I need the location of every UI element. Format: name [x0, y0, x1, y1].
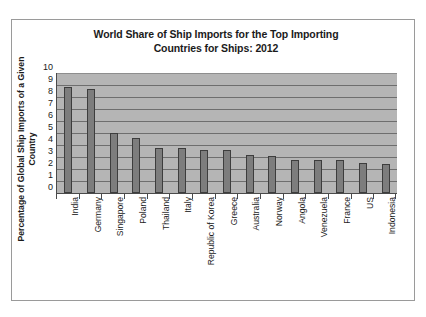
bar[interactable]	[200, 150, 208, 193]
bar-slot	[80, 73, 103, 193]
bar-slot	[102, 73, 125, 193]
chart-title-line-2: Countries for Ships: 2012	[46, 42, 386, 56]
bar[interactable]	[178, 148, 186, 193]
bar[interactable]	[314, 160, 322, 193]
bar-slot	[238, 73, 261, 193]
y-axis-tick-label: 8	[40, 86, 53, 97]
x-axis-label-slot: Australia	[237, 197, 260, 297]
chart-title-line-1: World Share of Ship Imports for the Top …	[46, 28, 386, 42]
y-axis-tick-labels: 109876543210	[40, 67, 53, 199]
y-axis-tick-label: 3	[40, 146, 53, 157]
y-axis-tick-label: 4	[40, 134, 53, 145]
bar[interactable]	[268, 156, 276, 193]
bar-slot	[284, 73, 307, 193]
y-axis-tick-label: 2	[40, 158, 53, 169]
x-axis-label-slot: Indonesia	[373, 197, 396, 297]
y-axis-tick-label: 7	[40, 98, 53, 109]
y-axis-title: Percentage of Global Ship Imports of a G…	[16, 54, 38, 244]
y-axis-tick-label: 10	[40, 62, 53, 73]
bar-slot	[329, 73, 352, 193]
plot-area	[56, 73, 397, 194]
bar[interactable]	[132, 138, 140, 193]
bar[interactable]	[110, 133, 118, 193]
bar-slot	[125, 73, 148, 193]
x-axis-label-slot: Angola	[283, 197, 306, 297]
bar[interactable]	[223, 150, 231, 193]
y-axis-tick-label: 0	[40, 182, 53, 193]
x-axis-label-slot: Germany	[79, 197, 102, 297]
chart-title: World Share of Ship Imports for the Top …	[46, 28, 386, 55]
bar-slot	[216, 73, 239, 193]
x-axis-label-slot: France	[328, 197, 351, 297]
x-axis-label-slot: Republic of Korea	[192, 197, 215, 297]
x-axis-label-slot: India	[56, 197, 79, 297]
x-axis-label-slot: Italy	[169, 197, 192, 297]
bar-slot	[193, 73, 216, 193]
x-axis-label-slot: Norway	[260, 197, 283, 297]
bar-slot	[148, 73, 171, 193]
y-axis-tick-label: 1	[40, 170, 53, 181]
x-axis-category-label: Indonesia	[388, 197, 397, 234]
bar[interactable]	[336, 160, 344, 193]
bar-series	[57, 73, 397, 193]
chart-frame: World Share of Ship Imports for the Top …	[11, 19, 415, 301]
plot-area-wrapper: 109876543210	[56, 73, 396, 193]
bar-slot	[306, 73, 329, 193]
x-axis-label-slot: Venezuela	[305, 197, 328, 297]
bar[interactable]	[87, 89, 95, 193]
bar-slot	[57, 73, 80, 193]
bar[interactable]	[359, 163, 367, 193]
x-axis-label-slot: Greece	[215, 197, 238, 297]
x-axis-label-slot: US	[351, 197, 374, 297]
x-axis-label-slot: Singapore	[101, 197, 124, 297]
bar[interactable]	[64, 87, 72, 193]
bar[interactable]	[155, 148, 163, 193]
x-axis-label-slot: Poland	[124, 197, 147, 297]
bar[interactable]	[382, 164, 390, 193]
bar[interactable]	[291, 160, 299, 193]
x-axis-label-slot: Thailand	[147, 197, 170, 297]
bar-slot	[170, 73, 193, 193]
bar-slot	[374, 73, 397, 193]
y-axis-tick-label: 5	[40, 122, 53, 133]
x-axis-category-labels: IndiaGermanySingaporePolandThailandItaly…	[56, 197, 396, 297]
y-axis-tick-label: 9	[40, 74, 53, 85]
y-axis-tick-label: 6	[40, 110, 53, 121]
bar[interactable]	[246, 155, 254, 193]
bar-slot	[261, 73, 284, 193]
bar-slot	[352, 73, 375, 193]
